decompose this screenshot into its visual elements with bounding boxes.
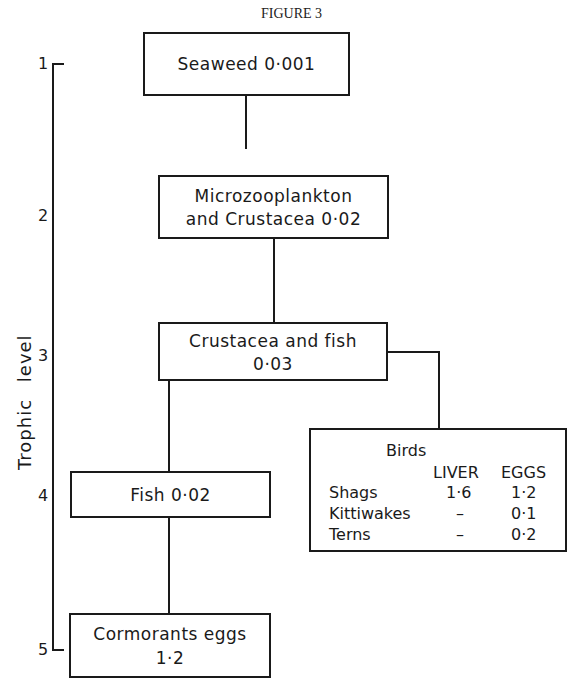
birds-row-name: Shags (329, 482, 378, 503)
node-cormorants: Cormorants eggs 1·2 (69, 613, 271, 678)
axis-label: Trophic level (14, 334, 35, 470)
microzooplankton-label-2: and Crustacea 0·02 (160, 208, 387, 230)
crustacea-fish-label-1: Crustacea and fish (160, 330, 386, 352)
cormorants-label-2: 1·2 (71, 647, 269, 669)
cormorants-label-1: Cormorants eggs (71, 623, 269, 645)
node-microzooplankton: Microzooplankton and Crustacea 0·02 (158, 175, 389, 239)
figure-title: FIGURE 3 (0, 6, 583, 22)
connector-micro-crustacea (273, 238, 275, 323)
birds-row-liver: 1·6 (446, 482, 471, 503)
axis-tick-top (52, 63, 64, 65)
birds-row-liver: – (456, 524, 464, 545)
birds-heading: Birds (386, 440, 426, 461)
fish-label: Fish 0·02 (72, 484, 269, 506)
node-seaweed: Seaweed 0·001 (143, 32, 350, 96)
connector-fish-cormorants (168, 517, 170, 615)
node-crustacea-fish: Crustacea and fish 0·03 (158, 322, 388, 381)
level-4: 4 (38, 486, 48, 505)
birds-row-liver: – (456, 503, 464, 524)
level-1: 1 (38, 54, 48, 73)
birds-row-eggs: 0·2 (511, 524, 536, 545)
axis-line (52, 63, 54, 651)
connector-crustacea-fish (168, 380, 170, 472)
crustacea-fish-label-2: 0·03 (160, 353, 386, 375)
birds-col-eggs: EGGS (501, 462, 546, 483)
node-fish: Fish 0·02 (70, 471, 271, 518)
birds-row-name: Terns (329, 524, 371, 545)
seaweed-label: Seaweed 0·001 (145, 53, 348, 75)
node-birds: Birds LIVER EGGS Shags 1·6 1·2 Kittiwake… (309, 428, 567, 552)
birds-row-name: Kittiwakes (329, 503, 411, 524)
level-2: 2 (38, 206, 48, 225)
birds-row-eggs: 1·2 (511, 482, 536, 503)
level-3: 3 (38, 346, 48, 365)
connector-seaweed-micro (245, 95, 247, 149)
birds-row-eggs: 0·1 (511, 503, 536, 524)
connector-crustacea-birds-v (438, 351, 440, 429)
birds-col-liver: LIVER (433, 462, 479, 483)
microzooplankton-label-1: Microzooplankton (160, 185, 387, 207)
level-5: 5 (38, 640, 48, 659)
connector-crustacea-birds-h (386, 351, 440, 353)
axis-tick-bottom (52, 649, 64, 651)
